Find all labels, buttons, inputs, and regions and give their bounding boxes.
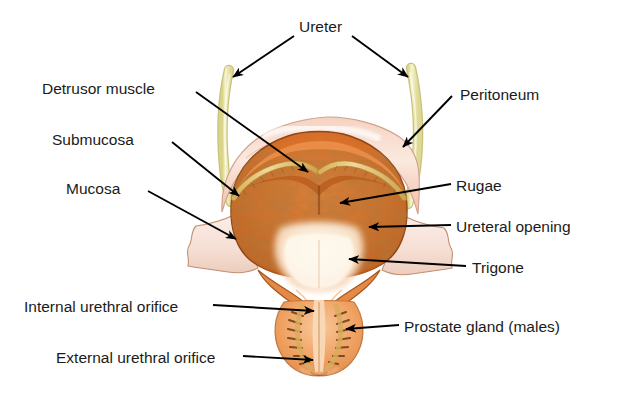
leader-rugae bbox=[340, 184, 451, 203]
label-peritoneum: Peritoneum bbox=[460, 86, 539, 103]
leader-external-urethral-orifice bbox=[243, 356, 313, 360]
label-ureter: Ureter bbox=[299, 18, 342, 35]
leader-submucosa bbox=[172, 142, 239, 196]
label-ureteral-opening: Ureteral opening bbox=[456, 218, 571, 235]
label-internal-urethral-orifice: Internal urethral orifice bbox=[24, 298, 178, 315]
leader-peritoneum bbox=[403, 96, 452, 147]
leader-trigone bbox=[349, 259, 466, 266]
leader-prostate-gland bbox=[346, 325, 399, 329]
leader-mucosa bbox=[148, 191, 236, 239]
leader-ureteral-opening bbox=[369, 225, 451, 227]
leader-ureter-left bbox=[233, 36, 294, 77]
leader-ureter-right bbox=[352, 36, 408, 77]
label-mucosa: Mucosa bbox=[66, 180, 120, 197]
label-detrusor-muscle: Detrusor muscle bbox=[42, 80, 155, 97]
label-trigone: Trigone bbox=[472, 259, 524, 276]
label-external-urethral-orifice: External urethral orifice bbox=[56, 349, 215, 366]
bladder-anatomy-figure: Ureter Detrusor muscle Submucosa Mucosa … bbox=[0, 0, 638, 393]
label-submucosa: Submucosa bbox=[52, 131, 134, 148]
label-prostate-gland: Prostate gland (males) bbox=[404, 318, 560, 335]
leader-detrusor-muscle bbox=[196, 92, 308, 172]
label-rugae: Rugae bbox=[456, 177, 502, 194]
leader-internal-urethral-orifice bbox=[213, 305, 314, 311]
